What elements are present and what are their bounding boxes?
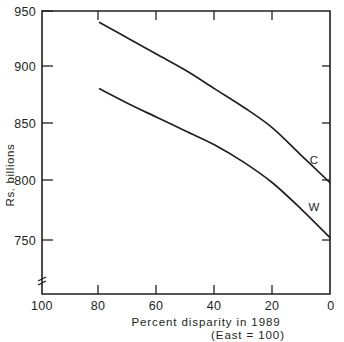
chart-figure: 950 900 850 800 750 Rs. billions 100 80 …	[0, 0, 344, 342]
xtick-label-20: 20	[265, 299, 280, 313]
xtick-label-80: 80	[91, 299, 106, 313]
x-axis-title: Percent disparity in 1989	[131, 316, 280, 328]
series-label-w: W	[309, 201, 320, 213]
ytick-label-850: 850	[14, 117, 36, 131]
ytick-label-750: 750	[14, 234, 36, 248]
ytick-label-800: 800	[14, 174, 36, 188]
xtick-label-60: 60	[149, 299, 164, 313]
ytick-label-900: 900	[14, 60, 36, 74]
xtick-label-100: 100	[31, 299, 53, 313]
y-axis-title: Rs. billions	[4, 144, 16, 207]
x-axis-subtitle: (East = 100)	[211, 329, 285, 341]
ytick-label-950: 950	[14, 5, 36, 19]
xtick-label-40: 40	[207, 299, 222, 313]
chart-background	[0, 0, 344, 342]
xtick-label-0: 0	[327, 299, 334, 313]
series-label-c: C	[310, 154, 318, 166]
chart-svg: 950 900 850 800 750 Rs. billions 100 80 …	[0, 0, 344, 342]
